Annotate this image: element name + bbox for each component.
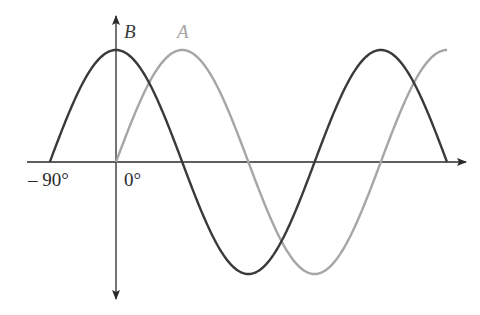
phase-diagram: B A – 90° 0° xyxy=(0,0,480,315)
label-a: A xyxy=(175,21,189,42)
tick-label-minus90: – 90° xyxy=(27,169,69,190)
tick-label-0: 0° xyxy=(124,169,141,190)
label-b: B xyxy=(124,21,136,42)
diagram-canvas: B A – 90° 0° xyxy=(0,0,480,315)
